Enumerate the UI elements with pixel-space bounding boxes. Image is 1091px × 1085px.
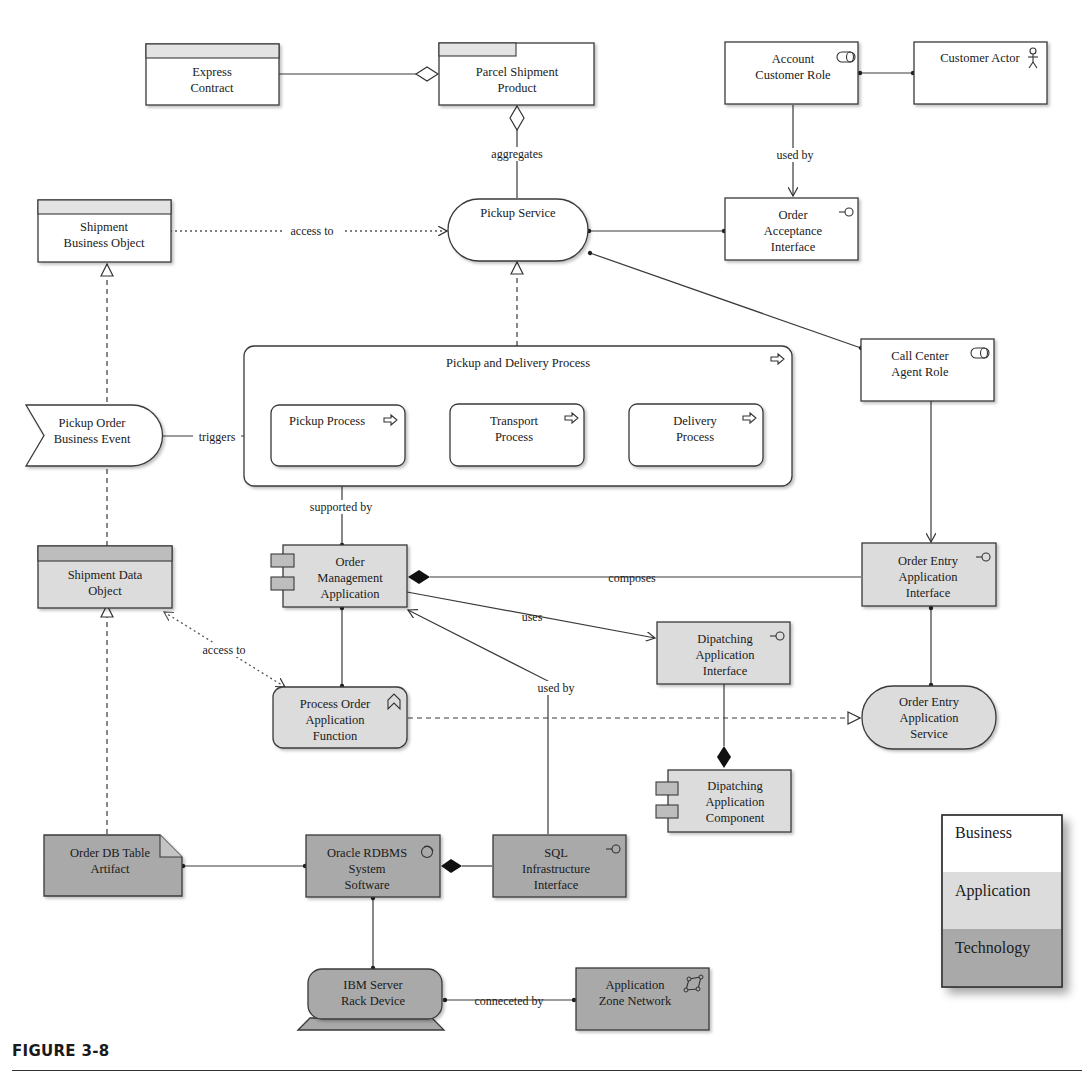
node-pickup-service[interactable]: Pickup Service [448, 199, 588, 261]
svg-text:Acceptance: Acceptance [764, 224, 823, 238]
node-transport-process[interactable]: Transport Process [450, 404, 584, 466]
node-order-acceptance-interface[interactable]: Order Acceptance Interface [725, 198, 858, 260]
node-order-entry-app-interface[interactable]: Order Entry Application Interface [862, 543, 996, 606]
node-order-entry-app-service[interactable]: Order Entry Application Service [862, 686, 996, 749]
svg-text:Customer Actor: Customer Actor [940, 51, 1020, 65]
svg-text:Agent Role: Agent Role [891, 365, 949, 379]
edge-label-used-by-top: used by [777, 148, 814, 162]
svg-text:Customer Role: Customer Role [755, 68, 831, 82]
node-pickup-process[interactable]: Pickup Process [271, 405, 405, 466]
node-call-center-agent-role[interactable]: Call Center Agent Role [861, 339, 994, 401]
svg-text:Shipment Data: Shipment Data [68, 568, 143, 582]
edge-label-aggregates: aggregates [491, 147, 543, 161]
node-process-order-function[interactable]: Process Order Application Function [273, 687, 407, 748]
svg-text:Rack Device: Rack Device [341, 994, 406, 1008]
legend-swatch-technology [943, 929, 1061, 986]
svg-text:Order DB Table: Order DB Table [70, 846, 151, 860]
svg-text:Process Order: Process Order [300, 697, 371, 711]
svg-text:Application: Application [705, 795, 765, 809]
svg-text:Pickup Service: Pickup Service [480, 206, 556, 220]
node-dispatching-app-interface[interactable]: Dipatching Application Interface [657, 622, 790, 684]
svg-text:Application: Application [898, 570, 958, 584]
edge-label-access-to-bottom: access to [203, 643, 246, 657]
node-order-db-table-artifact[interactable]: Order DB Table Artifact [44, 835, 182, 896]
caption-divider [12, 1070, 1082, 1071]
edge-dispatch-composition [717, 684, 731, 768]
svg-text:Dipatching: Dipatching [707, 779, 763, 793]
legend-swatch-application [943, 872, 1061, 929]
node-express-contract[interactable]: Express Contract [146, 44, 279, 105]
svg-text:Process: Process [676, 430, 714, 444]
edge-express-to-product-aggregation [252, 67, 438, 81]
svg-text:Express: Express [192, 65, 232, 79]
edge-aggregates: aggregates [485, 106, 549, 198]
svg-text:Service: Service [910, 727, 948, 741]
svg-text:Software: Software [344, 878, 390, 892]
edge-service-to-call-center [590, 253, 861, 348]
node-dispatching-app-component[interactable]: Dipatching Application Component [656, 770, 791, 832]
node-shipment-business-object[interactable]: Shipment Business Object [38, 200, 171, 262]
node-sql-infra-interface[interactable]: SQL Infrastructure Interface [493, 835, 626, 897]
legend-label-technology: Technology [955, 939, 1030, 957]
figure-caption: FIGURE 3-8 [12, 1042, 109, 1060]
node-pickup-order-event[interactable]: Pickup Order Business Event [26, 405, 162, 466]
svg-text:Object: Object [88, 584, 122, 598]
svg-text:Order Entry: Order Entry [899, 695, 960, 709]
svg-text:Zone Network: Zone Network [599, 994, 672, 1008]
svg-text:System: System [349, 862, 386, 876]
node-app-zone-network[interactable]: Application Zone Network [576, 968, 709, 1030]
svg-text:Dipatching: Dipatching [697, 632, 753, 646]
node-order-management-application[interactable]: Order Management Application [271, 545, 407, 607]
svg-text:Management: Management [317, 571, 383, 585]
svg-text:Parcel Shipment: Parcel Shipment [476, 65, 559, 79]
legend-label-application: Application [955, 882, 1031, 900]
svg-text:Call Center: Call Center [891, 349, 949, 363]
svg-text:Business Event: Business Event [54, 432, 131, 446]
edge-label-triggers: triggers [199, 430, 236, 444]
svg-text:Oracle RDBMS: Oracle RDBMS [327, 846, 407, 860]
svg-text:Pickup Process: Pickup Process [289, 414, 365, 428]
svg-text:Application: Application [605, 978, 665, 992]
edge-access-to-top: access to [160, 224, 447, 238]
svg-text:Component: Component [706, 811, 765, 825]
svg-text:Account: Account [772, 52, 815, 66]
legend-label-business: Business [955, 824, 1012, 841]
edge-label-connected-by: conneceted by [475, 994, 544, 1008]
edge-used-by-top: used by [770, 105, 820, 196]
svg-text:Order: Order [778, 208, 808, 222]
svg-text:Contract: Contract [190, 81, 234, 95]
edge-label-access-to-top: access to [291, 224, 334, 238]
svg-text:Application: Application [695, 648, 755, 662]
node-account-customer-role[interactable]: Account Customer Role [725, 42, 858, 104]
edge-label-supported-by: supported by [310, 500, 372, 514]
svg-text:Pickup Order: Pickup Order [59, 416, 127, 430]
svg-text:IBM Server: IBM Server [343, 978, 403, 992]
edge-access-to-bottom: access to [164, 612, 285, 687]
svg-text:SQL: SQL [544, 846, 568, 860]
edge-uses: uses [407, 592, 655, 638]
svg-text:Artifact: Artifact [91, 862, 130, 876]
svg-text:Interface: Interface [534, 878, 579, 892]
edge-used-by-bottom: used by [408, 610, 580, 834]
edge-label-uses: uses [522, 610, 543, 624]
svg-text:Order: Order [335, 555, 365, 569]
svg-text:Interface: Interface [906, 586, 951, 600]
legend: Business Application Technology [942, 815, 1062, 987]
node-oracle-rdbms[interactable]: Oracle RDBMS System Software [306, 835, 440, 897]
node-customer-actor[interactable]: Customer Actor [914, 42, 1047, 104]
svg-text:Interface: Interface [703, 664, 748, 678]
node-delivery-process[interactable]: Delivery Process [629, 404, 763, 466]
svg-text:Business Object: Business Object [64, 236, 145, 250]
svg-text:Application: Application [899, 711, 959, 725]
svg-text:Process: Process [495, 430, 533, 444]
svg-text:Product: Product [498, 81, 537, 95]
svg-text:Pickup and Delivery Process: Pickup and Delivery Process [446, 356, 590, 370]
svg-text:Order Entry: Order Entry [898, 554, 959, 568]
svg-text:Application: Application [305, 713, 365, 727]
node-parcel-shipment-product[interactable]: Parcel Shipment Product [439, 43, 594, 105]
node-ibm-server-rack[interactable]: IBM Server Rack Device [298, 969, 444, 1030]
node-shipment-data-object[interactable]: Shipment Data Object [38, 546, 172, 608]
svg-text:Transport: Transport [490, 414, 539, 428]
svg-text:Delivery: Delivery [673, 414, 717, 428]
svg-text:Infrastructure: Infrastructure [522, 862, 590, 876]
